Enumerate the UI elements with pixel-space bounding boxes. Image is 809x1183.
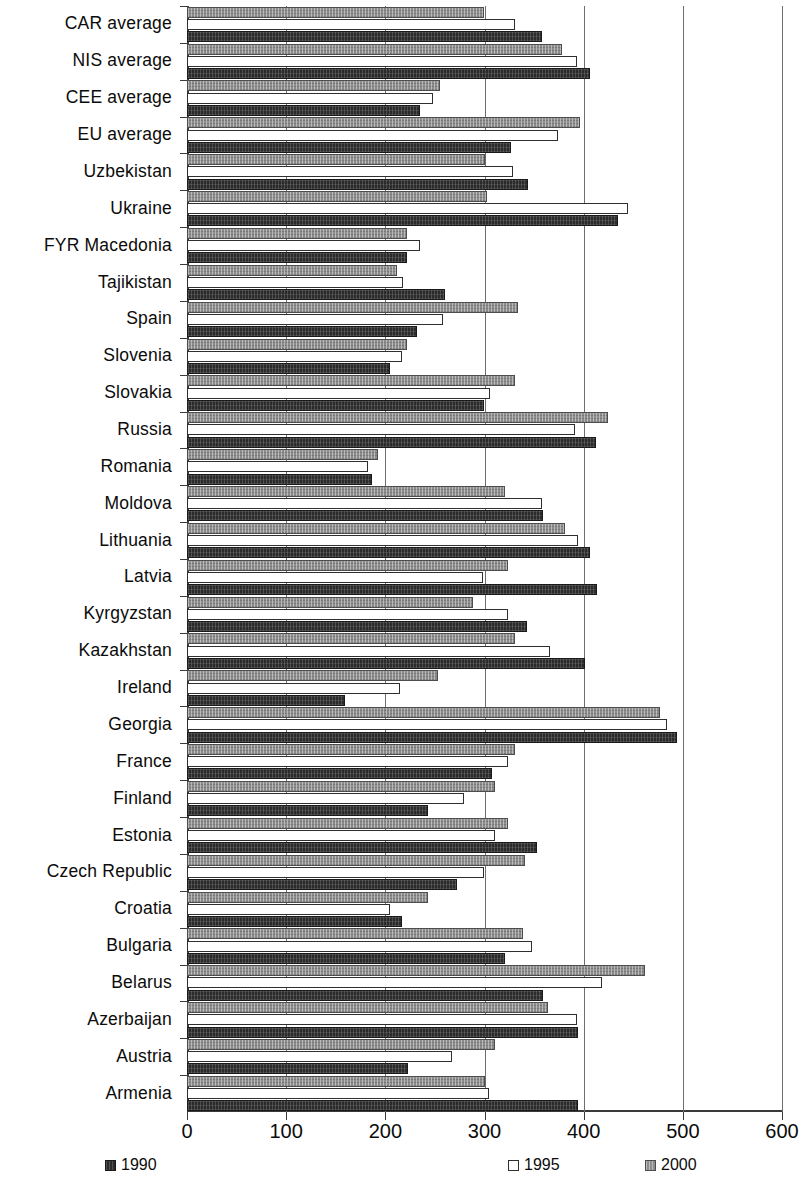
bar-1995-car-average xyxy=(187,19,515,30)
category-label-ukraine: Ukraine xyxy=(110,200,172,218)
category-label-column: CAR averageNIS averageCEE averageEU aver… xyxy=(0,6,180,1112)
bar-1990-finland xyxy=(187,805,428,816)
category-label-car-average: CAR average xyxy=(65,15,172,33)
bar-1990-cee-average xyxy=(187,105,420,116)
category-tick xyxy=(180,375,187,376)
category-label-austria: Austria xyxy=(116,1048,172,1066)
bar-2000-kyrgyzstan xyxy=(187,597,473,608)
bar-2000-moldova xyxy=(187,486,505,497)
bar-1990-moldova xyxy=(187,510,543,521)
bar-2000-lithuania xyxy=(187,523,565,534)
category-tick xyxy=(180,153,187,154)
category-label-georgia: Georgia xyxy=(108,716,172,734)
bar-2000-slovakia xyxy=(187,375,515,386)
bar-1990-slovakia xyxy=(187,400,484,411)
bar-2000-nis-average xyxy=(187,44,562,55)
bar-1995-bulgaria xyxy=(187,941,532,952)
bar-1990-slovenia xyxy=(187,363,390,374)
bar-1990-belarus xyxy=(187,990,543,1001)
bar-1990-fyr-macedonia xyxy=(187,252,407,263)
legend-label-1990: 1990 xyxy=(121,1156,157,1174)
gridline-500 xyxy=(683,6,684,1112)
category-label-lithuania: Lithuania xyxy=(99,532,172,550)
category-tick xyxy=(180,743,187,744)
bar-1995-fyr-macedonia xyxy=(187,240,420,251)
bar-1995-eu-average xyxy=(187,130,558,141)
category-tick xyxy=(180,448,187,449)
x-axis-tick-labels: 0100200300400500600 xyxy=(0,1120,809,1148)
bar-1990-armenia xyxy=(187,1100,578,1111)
category-label-estonia: Estonia xyxy=(112,827,172,845)
legend-item-1995[interactable]: 1995 xyxy=(508,1156,560,1174)
category-tick xyxy=(180,854,187,855)
bar-2000-france xyxy=(187,744,515,755)
bar-1990-croatia xyxy=(187,916,402,927)
bar-1995-ireland xyxy=(187,683,400,694)
bar-1995-france xyxy=(187,756,508,767)
bar-1995-lithuania xyxy=(187,535,578,546)
bar-1995-czech-republic xyxy=(187,867,484,878)
legend-item-2000[interactable]: 2000 xyxy=(645,1156,697,1174)
bar-1990-czech-republic xyxy=(187,879,457,890)
category-tick xyxy=(180,117,187,118)
x-tick-label-400: 400 xyxy=(567,1120,600,1143)
bar-1995-spain xyxy=(187,314,443,325)
category-tick xyxy=(180,965,187,966)
bar-2000-georgia xyxy=(187,707,660,718)
legend-item-1990[interactable]: 1990 xyxy=(105,1156,157,1174)
x-tick-300 xyxy=(485,1112,486,1120)
category-label-romania: Romania xyxy=(101,458,172,476)
category-tick xyxy=(180,891,187,892)
legend-swatch-icon-2000 xyxy=(645,1160,656,1171)
bar-1990-car-average xyxy=(187,31,542,42)
bar-2000-ukraine xyxy=(187,191,487,202)
x-axis-ticks xyxy=(187,1112,782,1120)
x-tick-600 xyxy=(782,1112,783,1120)
category-label-slovakia: Slovakia xyxy=(104,384,172,402)
bar-2000-estonia xyxy=(187,818,508,829)
legend-label-2000: 2000 xyxy=(661,1156,697,1174)
bar-1990-lithuania xyxy=(187,547,590,558)
category-label-ireland: Ireland xyxy=(117,679,172,697)
gridline-400 xyxy=(584,6,585,1112)
x-tick-500 xyxy=(683,1112,684,1120)
bar-1995-kazakhstan xyxy=(187,646,550,657)
x-tick-0 xyxy=(187,1112,188,1120)
category-tick xyxy=(180,780,187,781)
bar-2000-cee-average xyxy=(187,80,440,91)
bar-1995-estonia xyxy=(187,830,495,841)
bar-1990-ukraine xyxy=(187,215,618,226)
category-tick xyxy=(180,1075,187,1076)
category-tick xyxy=(180,43,187,44)
category-label-kyrgyzstan: Kyrgyzstan xyxy=(83,605,172,623)
bar-2000-spain xyxy=(187,302,518,313)
category-label-nis-average: NIS average xyxy=(73,52,172,70)
category-label-russia: Russia xyxy=(117,421,172,439)
x-tick-400 xyxy=(584,1112,585,1120)
bar-2000-uzbekistan xyxy=(187,154,485,165)
category-tick xyxy=(180,817,187,818)
bar-2000-latvia xyxy=(187,560,508,571)
category-label-slovenia: Slovenia xyxy=(103,347,172,365)
category-tick xyxy=(180,412,187,413)
bar-2000-belarus xyxy=(187,965,645,976)
category-label-tajikistan: Tajikistan xyxy=(98,274,172,292)
bar-2000-finland xyxy=(187,781,495,792)
category-label-finland: Finland xyxy=(113,790,172,808)
bar-1990-kazakhstan xyxy=(187,658,585,669)
category-tick xyxy=(180,596,187,597)
bar-1995-tajikistan xyxy=(187,277,403,288)
chart-legend: 199019952000 xyxy=(0,1156,809,1182)
bar-1995-croatia xyxy=(187,904,390,915)
bar-1995-slovenia xyxy=(187,351,402,362)
category-tick xyxy=(180,338,187,339)
bar-1995-georgia xyxy=(187,719,667,730)
bar-1995-nis-average xyxy=(187,56,577,67)
category-label-azerbaijan: Azerbaijan xyxy=(87,1011,172,1029)
category-label-france: France xyxy=(116,753,172,771)
bar-2000-eu-average xyxy=(187,117,580,128)
bar-2000-russia xyxy=(187,412,608,423)
bar-1995-uzbekistan xyxy=(187,166,513,177)
bar-1990-eu-average xyxy=(187,142,511,153)
category-label-fyr-macedonia: FYR Macedonia xyxy=(44,237,172,255)
